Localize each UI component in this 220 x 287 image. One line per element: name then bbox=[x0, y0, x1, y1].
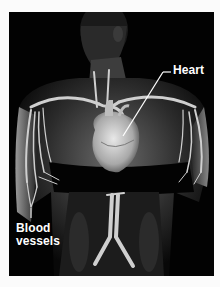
left-arm bbox=[15, 107, 39, 222]
blood-vessels-label: Blood vessels bbox=[16, 222, 60, 248]
blood-vessels-label-line2: vessels bbox=[16, 235, 60, 248]
anatomy-illustration-panel: Heart Blood vessels bbox=[9, 12, 214, 276]
head-silhouette bbox=[80, 12, 128, 84]
heart-label: Heart bbox=[173, 64, 204, 77]
